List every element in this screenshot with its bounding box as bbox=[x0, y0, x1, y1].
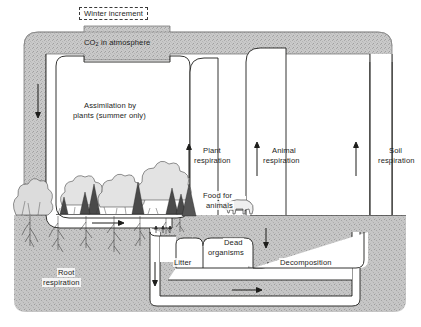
carbon-cycle-diagram: Winter increment CO2 in atmosphere Assim… bbox=[0, 0, 421, 327]
soil-respiration-riser bbox=[370, 54, 392, 215]
diagram-canvas bbox=[0, 0, 421, 327]
left-edge-vegetation bbox=[13, 179, 52, 215]
flow-arrow-soil-respiration bbox=[354, 142, 359, 176]
